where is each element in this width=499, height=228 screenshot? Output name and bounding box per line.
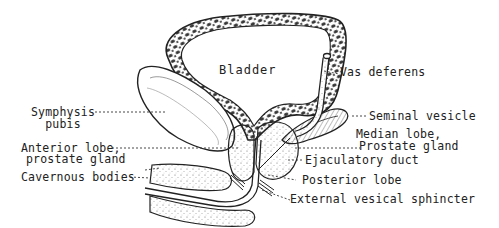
label-ejaculatory-duct: Ejaculatory duct xyxy=(305,154,419,166)
label-median-lobe-line2: Prostate gland xyxy=(359,140,459,152)
cavernous-body-lower xyxy=(150,196,255,226)
label-posterior-lobe: Posterior lobe xyxy=(302,174,402,186)
cavernous-body-upper xyxy=(150,164,231,190)
label-cavernous-bodies: Cavernous bodies xyxy=(21,171,135,183)
label-external-sphincter: External vesical sphincter xyxy=(290,193,475,205)
label-seminal-vesicle: Seminal vesicle xyxy=(369,110,476,122)
label-bladder: Bladder xyxy=(219,64,277,76)
label-vas-deferens: Vas deferens xyxy=(340,66,425,78)
label-symphysis-line2: pubis xyxy=(27,118,99,130)
label-anterior-lobe-line2: prostate gland xyxy=(26,153,126,165)
anatomy-diagram: Bladder Vas deferens Symphysis pubis Sem… xyxy=(0,0,499,228)
